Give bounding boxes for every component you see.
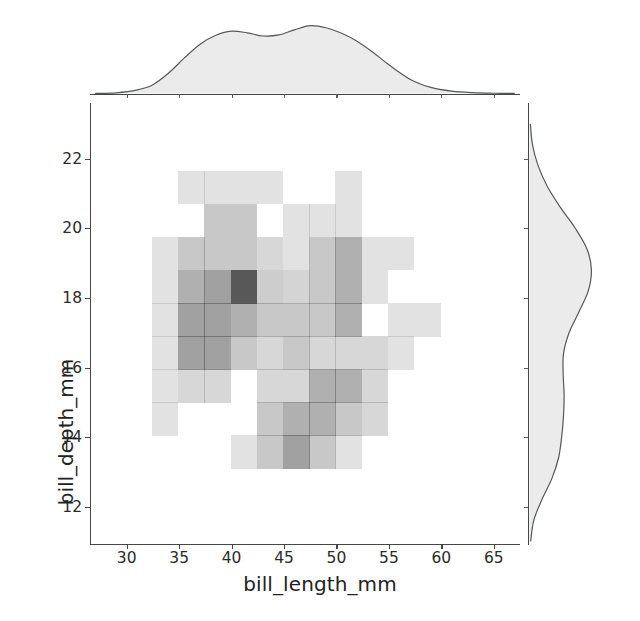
histogram-cell xyxy=(231,237,258,270)
histogram-cell xyxy=(283,336,310,369)
marginal-top-tick xyxy=(441,94,442,98)
marginal-top-tick xyxy=(389,94,390,98)
histogram-cell xyxy=(283,204,310,237)
histogram-cell xyxy=(178,237,205,270)
histogram-cell xyxy=(335,402,362,435)
y-axis-title-wrapper: bill_depth_mm xyxy=(34,120,60,540)
histogram-cell xyxy=(388,336,415,369)
y-tick-label: 22 xyxy=(62,150,82,168)
y-tick xyxy=(85,437,90,438)
histogram-cell xyxy=(335,369,362,402)
histogram-cell xyxy=(283,435,310,468)
histogram-cell xyxy=(204,270,231,303)
marginal-top-tick xyxy=(179,94,180,98)
histogram-cell xyxy=(309,435,336,468)
histogram-cell xyxy=(257,435,284,468)
marginal-right-tick xyxy=(524,298,528,299)
histogram-cell xyxy=(309,270,336,303)
histogram-cell xyxy=(309,402,336,435)
x-tick-label: 55 xyxy=(379,549,399,567)
histogram-cell xyxy=(152,402,179,435)
histogram-cell xyxy=(309,237,336,270)
histogram-cell xyxy=(335,435,362,468)
marginal-right-baseline xyxy=(528,103,529,545)
histogram-cell xyxy=(388,303,415,336)
x-axis-title: bill_length_mm xyxy=(0,572,640,596)
marginal-right-tick xyxy=(524,368,528,369)
joint-heatmap-axes xyxy=(90,103,520,545)
x-tick-label: 30 xyxy=(117,549,137,567)
x-tick-label: 65 xyxy=(484,549,504,567)
histogram-cell xyxy=(283,402,310,435)
histogram-cell xyxy=(204,237,231,270)
histogram-cell xyxy=(231,270,258,303)
y-tick xyxy=(85,507,90,508)
histogram-cell xyxy=(231,171,258,204)
histogram-cell xyxy=(204,369,231,402)
histogram-cell xyxy=(257,303,284,336)
histogram-cell xyxy=(335,303,362,336)
marginal-right-tick xyxy=(524,437,528,438)
histogram-cell xyxy=(283,369,310,402)
y-tick xyxy=(85,228,90,229)
marginal-right-kde-curve xyxy=(528,103,598,545)
jointplot-figure: 3035404550556065 121416182022 bill_lengt… xyxy=(0,0,640,621)
histogram-cell xyxy=(335,270,362,303)
x-tick-label: 35 xyxy=(169,549,189,567)
y-tick xyxy=(85,368,90,369)
histogram-cell xyxy=(152,237,179,270)
histogram-cell xyxy=(257,402,284,435)
marginal-top-tick xyxy=(494,94,495,98)
histogram-cell xyxy=(257,270,284,303)
histogram-cell xyxy=(178,303,205,336)
histogram-cell xyxy=(309,369,336,402)
x-tick-label: 40 xyxy=(222,549,242,567)
histogram-cell xyxy=(283,270,310,303)
histogram-cell xyxy=(231,336,258,369)
marginal-right-kde-axes xyxy=(528,103,598,545)
marginal-top-tick xyxy=(232,94,233,98)
histogram-cell xyxy=(231,204,258,237)
histogram-cell xyxy=(309,204,336,237)
histogram-cell xyxy=(257,369,284,402)
histogram-cell xyxy=(309,336,336,369)
marginal-top-tick xyxy=(284,94,285,98)
marginal-top-baseline xyxy=(90,94,520,95)
histogram-cell xyxy=(178,171,205,204)
histogram-cell xyxy=(204,171,231,204)
histogram-cell xyxy=(178,270,205,303)
histogram-2d-cells xyxy=(90,103,520,545)
histogram-cell xyxy=(362,270,389,303)
marginal-right-tick xyxy=(524,507,528,508)
marginal-top-tick xyxy=(336,94,337,98)
x-axis-spine xyxy=(90,544,520,545)
histogram-cell xyxy=(204,303,231,336)
histogram-cell xyxy=(257,171,284,204)
x-tick-label: 50 xyxy=(327,549,347,567)
histogram-cell xyxy=(362,237,389,270)
histogram-cell xyxy=(257,336,284,369)
histogram-cell xyxy=(231,435,258,468)
histogram-cell xyxy=(152,303,179,336)
histogram-cell xyxy=(414,303,441,336)
histogram-cell xyxy=(362,402,389,435)
marginal-top-kde-curve xyxy=(90,23,520,95)
histogram-cell xyxy=(388,237,415,270)
y-tick xyxy=(85,159,90,160)
histogram-cell xyxy=(204,336,231,369)
histogram-cell xyxy=(335,171,362,204)
histogram-cell xyxy=(152,369,179,402)
histogram-cell xyxy=(335,237,362,270)
x-tick-label: 45 xyxy=(274,549,294,567)
histogram-cell xyxy=(335,336,362,369)
x-tick-label: 60 xyxy=(431,549,451,567)
marginal-top-kde-axes xyxy=(90,23,520,95)
histogram-cell xyxy=(335,204,362,237)
histogram-cell xyxy=(204,204,231,237)
marginal-right-tick xyxy=(524,228,528,229)
y-axis-spine xyxy=(90,103,91,545)
histogram-cell xyxy=(178,369,205,402)
histogram-cell xyxy=(178,336,205,369)
histogram-cell xyxy=(257,237,284,270)
histogram-cell xyxy=(283,303,310,336)
